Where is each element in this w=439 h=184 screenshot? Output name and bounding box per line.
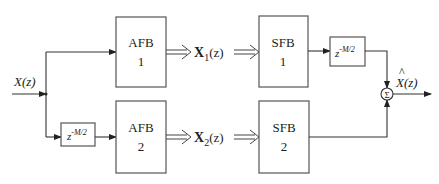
- delay-to-sum-arrow: [365, 51, 387, 88]
- x2-signal-label: X2(z): [194, 130, 224, 148]
- sfb1-block: SFB 1: [259, 16, 308, 87]
- input-signal: X(z): [12, 74, 48, 96]
- double-arrow-sfb2: [234, 130, 259, 144]
- svg-text:Σ: Σ: [384, 90, 389, 100]
- svg-text:AFB: AFB: [128, 35, 154, 50]
- svg-text:SFB: SFB: [271, 35, 294, 50]
- double-arrow-sfb1: [234, 45, 259, 59]
- svg-text:2: 2: [281, 139, 288, 154]
- filter-bank-diagram: X(z) z-M/2 AFB 1 AFB 2 X1(z): [0, 0, 439, 184]
- output-label: X(z): [395, 75, 418, 90]
- svg-text:2: 2: [138, 139, 145, 154]
- delay-output-block: z-M/2: [330, 37, 365, 66]
- x1-signal-label: X1(z): [194, 45, 224, 63]
- sum-node: Σ: [381, 88, 393, 100]
- sfb2-to-sum-arrow: [309, 100, 387, 137]
- delay-input-block: z-M/2: [61, 123, 95, 146]
- svg-text:SFB: SFB: [272, 120, 295, 135]
- sfb2-block: SFB 2: [259, 101, 309, 173]
- svg-text:AFB: AFB: [128, 120, 154, 135]
- double-arrow-afb2: [166, 130, 191, 144]
- svg-text:1: 1: [138, 54, 145, 69]
- svg-text:1: 1: [280, 54, 287, 69]
- afb1-block: AFB 1: [116, 17, 166, 87]
- afb2-block: AFB 2: [116, 101, 166, 173]
- input-label: X(z): [13, 74, 36, 89]
- double-arrow-afb1: [166, 45, 191, 59]
